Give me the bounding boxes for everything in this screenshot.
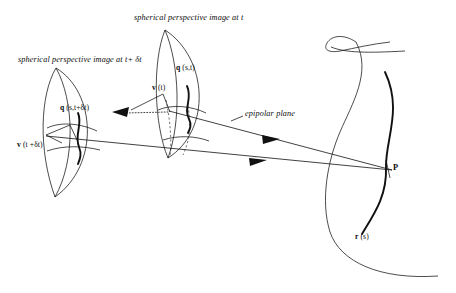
caption-image-at-t: spherical perspective image at t [134,14,243,22]
q-args-at-t-plus-dt: (s,t+δt) [66,103,89,112]
r-symbol: r [355,232,358,241]
label-q-at-t-plus-dt: q (s,t+δt) [60,104,89,112]
q-args-at-t: (s,t) [182,63,195,72]
v-args-at-t: (t) [158,83,165,92]
q-symbol-at-t: q [176,63,180,72]
v-symbol-at-t: v [152,83,156,92]
caption-image-at-t-plus-dt: spherical perspective image at t+ δt [18,56,142,64]
label-surface-curve: r (s) [355,233,369,241]
annotation-epipolar-plane: epipolar plane [245,110,295,118]
v-args-at-t-plus-dt: (t +δt) [23,140,43,149]
diagram-graphics [0,0,456,293]
label-v-at-t: v (t) [152,84,165,92]
label-v-at-t-plus-dt: v (t +δt) [17,141,43,149]
spherical-image-surface-at-t [156,30,209,158]
label-scene-point-P: P [393,164,398,172]
figure-canvas: spherical perspective image at t spheric… [0,0,456,293]
q-symbol-at-t-plus-dt: q [60,103,64,112]
viewpoint-construction [46,94,170,143]
epipolar-rays [46,111,392,170]
label-q-at-t: q (s,t) [176,64,195,72]
v-symbol-at-t-plus-dt: v [17,140,21,149]
r-args: (s) [360,232,368,241]
